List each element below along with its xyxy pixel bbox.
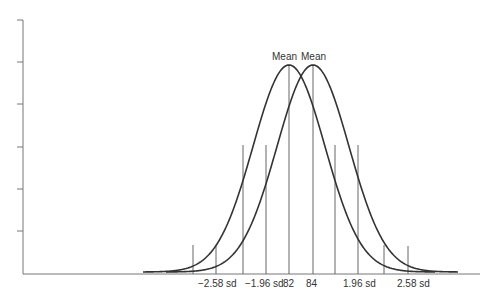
x-tick-labels: −2.58 sd −1.96 sd 82 84 1.96 sd 2.58 sd bbox=[198, 278, 430, 289]
mean-label-left: Mean bbox=[272, 51, 297, 62]
tick-label-1-96-sd: 1.96 sd bbox=[343, 278, 376, 289]
sd-guide-lines bbox=[193, 65, 408, 274]
tick-label-82: 82 bbox=[283, 278, 295, 289]
y-axis-ticks bbox=[17, 20, 23, 231]
normal-distribution-chart: Mean Mean −2.58 sd −1.96 sd 82 84 1.96 s… bbox=[0, 0, 494, 301]
tick-label-2-58-sd: 2.58 sd bbox=[397, 278, 430, 289]
distribution-curve-mean-84 bbox=[166, 65, 458, 272]
tick-label-neg-2-58-sd: −2.58 sd bbox=[198, 278, 237, 289]
mean-label-right: Mean bbox=[301, 51, 326, 62]
axes bbox=[17, 20, 480, 274]
tick-label-neg-1-96-sd: −1.96 sd bbox=[245, 278, 284, 289]
tick-label-84: 84 bbox=[306, 278, 318, 289]
